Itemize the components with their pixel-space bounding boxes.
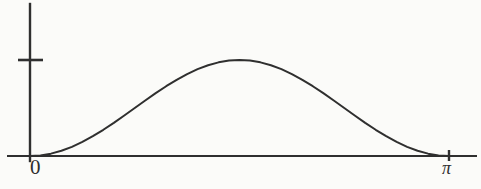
curve-line — [30, 60, 449, 156]
x-axis-label-pi: π — [442, 159, 451, 177]
plot-canvas — [0, 0, 481, 189]
figure-container: 0 π — [0, 0, 481, 189]
axes-group — [8, 4, 476, 161]
x-axis-label-origin: 0 — [30, 157, 41, 178]
data-series-group — [30, 60, 449, 156]
